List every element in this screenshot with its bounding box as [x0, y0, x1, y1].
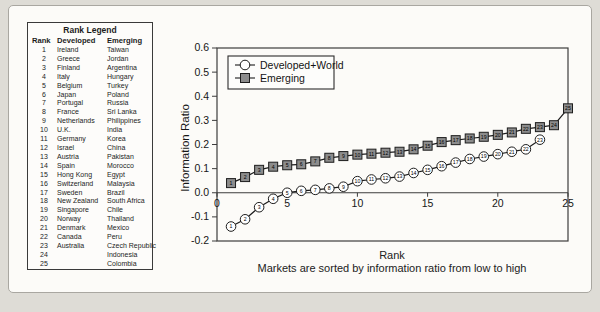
y-tick-label: 0.1 [194, 162, 209, 174]
developed-cell: Belgium [57, 82, 107, 91]
data-point-label: 16 [439, 139, 445, 145]
developed-cell: Sweden [57, 189, 107, 198]
emerging-cell: Turkey [107, 82, 157, 91]
developed-cell: Ireland [57, 46, 107, 55]
table-row: 10U.K.India [28, 126, 152, 135]
data-point-label: 9 [342, 153, 345, 159]
table-row: 20NorwayThailand [28, 215, 152, 224]
data-point-label: 13 [397, 149, 403, 155]
emerging-cell: Russia [107, 99, 157, 108]
rank-cell: 14 [31, 162, 57, 171]
developed-cell: Hong Kong [57, 171, 107, 180]
table-row: 7PortugalRussia [28, 99, 152, 108]
table-row: 6JapanPoland [28, 91, 152, 100]
data-point-label: 4 [272, 196, 275, 202]
data-point-label: 18 [467, 156, 473, 162]
y-tick-label: 0.0 [194, 186, 209, 198]
data-point-label: 1 [230, 180, 233, 186]
rank-cell: 15 [31, 171, 57, 180]
data-point-label: 15 [425, 143, 431, 149]
column-header-rank: Rank [31, 36, 57, 46]
rank-legend-table: Rank Legend Rank Developed Emerging 1Ire… [27, 22, 153, 270]
chart-caption: Markets are sorted by information ratio … [180, 262, 600, 275]
developed-cell: Austria [57, 153, 107, 162]
data-point-label: 13 [397, 173, 403, 179]
table-row: 9NetherlandsPhilippines [28, 117, 152, 126]
rank-cell: 19 [31, 206, 57, 215]
emerging-cell: Mexico [107, 224, 157, 233]
table-row: 11GermanyKorea [28, 135, 152, 144]
developed-cell: Israel [57, 144, 107, 153]
table-row: 2GreeceJordan [28, 55, 152, 64]
developed-cell: Portugal [57, 99, 107, 108]
developed-cell: Italy [57, 73, 107, 82]
x-tick-label: 15 [422, 197, 434, 209]
emerging-cell: Chile [107, 206, 157, 215]
emerging-cell: Thailand [107, 215, 157, 224]
table-row: 8FranceSri Lanka [28, 108, 152, 117]
rank-cell: 10 [31, 126, 57, 135]
developed-cell: Netherlands [57, 117, 107, 126]
y-tick-label: 0.6 [194, 41, 209, 53]
rank-cell: 24 [31, 251, 57, 260]
rank-cell: 13 [31, 153, 57, 162]
emerging-cell: Pakistan [107, 153, 157, 162]
data-point-label: 7 [314, 187, 317, 193]
data-point-label: 20 [495, 151, 501, 157]
x-axis-title: Rank [180, 249, 600, 262]
table-row: 16SwitzerlandMalaysia [28, 180, 152, 189]
rank-cell: 11 [31, 135, 57, 144]
rank-cell: 8 [31, 108, 57, 117]
data-point-label: 2 [244, 216, 247, 222]
table-row: 25Colombia [28, 260, 152, 269]
rank-cell: 7 [31, 99, 57, 108]
emerging-cell: Colombia [107, 260, 157, 269]
data-point-label: 9 [342, 184, 345, 190]
data-point-label: 7 [314, 158, 317, 164]
rank-cell: 6 [31, 91, 57, 100]
rank-cell: 3 [31, 64, 57, 73]
emerging-cell: Peru [107, 233, 157, 242]
developed-cell: Australia [57, 242, 107, 251]
emerging-cell: Indonesia [107, 251, 157, 260]
table-row: 5BelgiumTurkey [28, 82, 152, 91]
y-tick-label: 0.2 [194, 138, 209, 150]
data-point-label: 19 [481, 153, 487, 159]
emerging-cell: South Africa [107, 197, 157, 206]
data-point-label: 12 [383, 175, 389, 181]
emerging-cell: Hungary [107, 73, 157, 82]
rank-cell: 16 [31, 180, 57, 189]
developed-cell [57, 260, 107, 269]
data-point-label: 17 [453, 159, 459, 165]
table-row: 13AustriaPakistan [28, 153, 152, 162]
emerging-cell: Morocco [107, 162, 157, 171]
rank-cell: 17 [31, 189, 57, 198]
developed-cell: U.K. [57, 126, 107, 135]
rank-legend-title: Rank Legend [28, 25, 152, 36]
data-point-label: 6 [300, 188, 303, 194]
legend-label: Emerging [260, 72, 305, 84]
emerging-cell: Brazil [107, 189, 157, 198]
data-point-label: 11 [369, 151, 374, 157]
y-tick-label: 0.3 [194, 114, 209, 126]
rank-legend-header: Rank Developed Emerging [28, 36, 152, 46]
developed-cell: Denmark [57, 224, 107, 233]
data-point-label: 15 [425, 167, 431, 173]
data-point-label: 16 [439, 163, 445, 169]
data-point-label: 17 [453, 137, 459, 143]
table-row: 18New ZealandSouth Africa [28, 197, 152, 206]
developed-cell: Canada [57, 233, 107, 242]
data-point-label: 21 [509, 149, 515, 155]
y-axis-title: Information Ratio [179, 104, 191, 192]
data-point-label: 2 [244, 174, 247, 180]
rank-cell: 9 [31, 117, 57, 126]
y-tick-label: 0.4 [194, 90, 209, 102]
table-row: 19SingaporeChile [28, 206, 152, 215]
developed-cell: Singapore [57, 206, 107, 215]
data-point-label: 4 [272, 164, 275, 170]
table-row: 4ItalyHungary [28, 73, 152, 82]
data-point-label: 10 [355, 152, 361, 158]
emerging-cell: China [107, 144, 157, 153]
column-header-emerging: Emerging [107, 36, 157, 46]
emerging-cell: Argentina [107, 64, 157, 73]
